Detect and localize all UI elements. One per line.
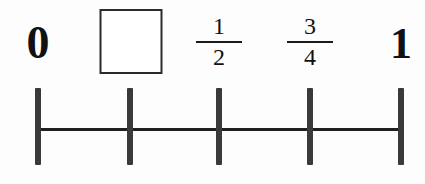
answer-box-blank[interactable] <box>100 9 163 74</box>
number-line-worksheet: 0 1 2 3 4 1 <box>0 0 425 184</box>
fraction-three-quarters: 3 4 <box>287 14 333 70</box>
label-one: 1 <box>390 22 412 66</box>
tick-mark-1 <box>127 88 133 165</box>
fraction-numerator: 1 <box>207 14 231 40</box>
fraction-denominator: 4 <box>298 44 322 70</box>
fraction-bar-icon <box>287 41 333 43</box>
tick-mark-2 <box>216 88 222 165</box>
label-zero: 0 <box>27 20 50 66</box>
fraction-bar-icon <box>196 41 242 43</box>
label-one-half: 1 2 <box>196 14 242 70</box>
fraction-numerator: 3 <box>298 14 322 40</box>
fraction-denominator: 2 <box>207 44 231 70</box>
tick-mark-3 <box>307 88 313 165</box>
tick-mark-0 <box>35 88 41 165</box>
tick-mark-4 <box>398 88 404 165</box>
fraction-one-half: 1 2 <box>196 14 242 70</box>
label-three-quarters: 3 4 <box>287 14 333 70</box>
